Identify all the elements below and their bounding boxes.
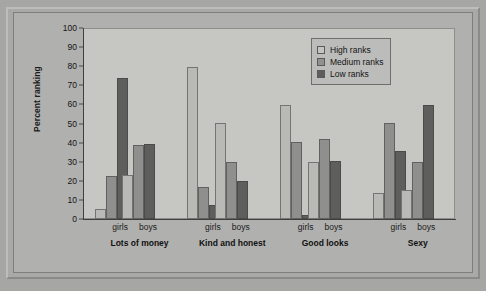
x-subgroup-label: girls bbox=[298, 222, 314, 232]
bar bbox=[237, 181, 248, 219]
x-subgroup-label: boys bbox=[139, 222, 157, 232]
bar bbox=[308, 162, 319, 219]
y-tick-label: 40 bbox=[68, 138, 77, 148]
bar bbox=[384, 123, 395, 219]
x-subgroup-label: girls bbox=[112, 222, 128, 232]
bar bbox=[401, 190, 412, 219]
x-subgroup-label: boys bbox=[324, 222, 342, 232]
bar bbox=[412, 162, 423, 219]
bar bbox=[187, 67, 198, 219]
y-axis-tick-labels: 1009080706050403020100 bbox=[39, 28, 83, 219]
x-category-label: Lots of money bbox=[110, 238, 168, 248]
bar-group bbox=[177, 29, 270, 219]
bar-subgroup bbox=[401, 29, 441, 219]
x-subgroup-label: boys bbox=[232, 222, 250, 232]
y-tick-label: 80 bbox=[68, 61, 77, 71]
bar-group bbox=[84, 29, 177, 219]
bar bbox=[423, 105, 434, 219]
bar bbox=[144, 144, 155, 219]
y-tick-label: 100 bbox=[63, 23, 77, 33]
legend-swatch-icon bbox=[317, 46, 325, 54]
bar bbox=[291, 142, 302, 219]
legend-label: Medium ranks bbox=[330, 57, 383, 67]
x-subgroup-label: girls bbox=[391, 222, 407, 232]
x-category-label: Sexy bbox=[408, 238, 428, 248]
legend-label: Low ranks bbox=[330, 69, 369, 79]
y-tick-label: 0 bbox=[72, 214, 77, 224]
x-axis-line bbox=[83, 219, 456, 220]
legend-item: High ranks bbox=[317, 44, 383, 55]
x-category-label: Good looks bbox=[302, 238, 349, 248]
bar bbox=[95, 209, 106, 219]
bar bbox=[215, 123, 226, 219]
legend-item: Medium ranks bbox=[317, 56, 383, 67]
bar-subgroup bbox=[122, 29, 162, 219]
legend-swatch-icon bbox=[317, 70, 325, 78]
bar bbox=[373, 193, 384, 219]
y-tick-label: 60 bbox=[68, 99, 77, 109]
y-tick-label: 50 bbox=[68, 119, 77, 129]
bar bbox=[106, 176, 117, 219]
x-category-label: Kind and honest bbox=[199, 238, 266, 248]
legend-label: High ranks bbox=[330, 45, 371, 55]
y-tick-label: 10 bbox=[68, 195, 77, 205]
bar bbox=[319, 139, 330, 219]
bar bbox=[280, 105, 291, 219]
plot-area bbox=[84, 29, 455, 219]
legend-item: Low ranks bbox=[317, 68, 383, 79]
chart-panel: Percent ranking 1009080706050403020100 g… bbox=[17, 16, 469, 269]
bar bbox=[133, 145, 144, 219]
y-tick-label: 70 bbox=[68, 80, 77, 90]
x-subgroup-label: girls bbox=[205, 222, 221, 232]
x-axis-labels: girlsboysLots of moneygirlsboysKind and … bbox=[84, 222, 455, 266]
bar-subgroup bbox=[215, 29, 255, 219]
bar bbox=[226, 162, 237, 219]
chart-legend: High ranksMedium ranksLow ranks bbox=[311, 38, 391, 85]
y-tick-label: 90 bbox=[68, 42, 77, 52]
legend-swatch-icon bbox=[317, 58, 325, 66]
chart-screenshot: Percent ranking 1009080706050403020100 g… bbox=[0, 0, 486, 291]
y-tick-label: 30 bbox=[68, 157, 77, 167]
bar bbox=[330, 161, 341, 219]
bar bbox=[198, 187, 209, 219]
y-tick-label: 20 bbox=[68, 176, 77, 186]
x-subgroup-label: boys bbox=[417, 222, 435, 232]
bar bbox=[122, 175, 133, 219]
